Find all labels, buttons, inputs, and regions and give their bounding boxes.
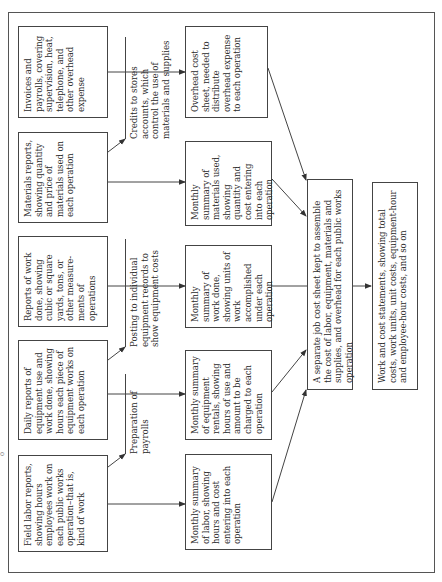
annotation-equipment-records: Posting to individual equipment records …	[125, 239, 161, 347]
flowchart-canvas: o Field labor repo	[0, 0, 442, 582]
work-cost-statements: Work and cost statements, showing total …	[372, 182, 418, 390]
summary-work: Monthly summary of work done, showing un…	[185, 245, 272, 328]
summary-materials: Monthly summary of materials used, showi…	[185, 141, 272, 226]
source-work-done: Reports of work done, showing cubic or s…	[18, 236, 108, 327]
overhead-cost-sheet: Overhead cost sheet, needed to distribut…	[185, 26, 268, 118]
source-field-labor: Field labor reports, showing hours emplo…	[18, 455, 108, 552]
summary-labor: Monthly summary of labor, showing hours …	[185, 454, 272, 550]
annotation-payrolls: Preparation of payrolls	[125, 374, 150, 454]
job-cost-sheet: A separate job cost sheet kept to assemb…	[307, 179, 353, 390]
summary-equipment: Monthly summary of equipment rentals, sh…	[185, 350, 272, 440]
source-daily-equipment: Daily reports of equipment use and work …	[18, 340, 108, 440]
annotation-stores-credits: Credits to stores accounts, which contro…	[125, 37, 171, 139]
source-invoices: Invoices and payrolls, covering supervis…	[18, 26, 108, 118]
source-materials: Materials reports, showing quantity and …	[18, 132, 108, 223]
